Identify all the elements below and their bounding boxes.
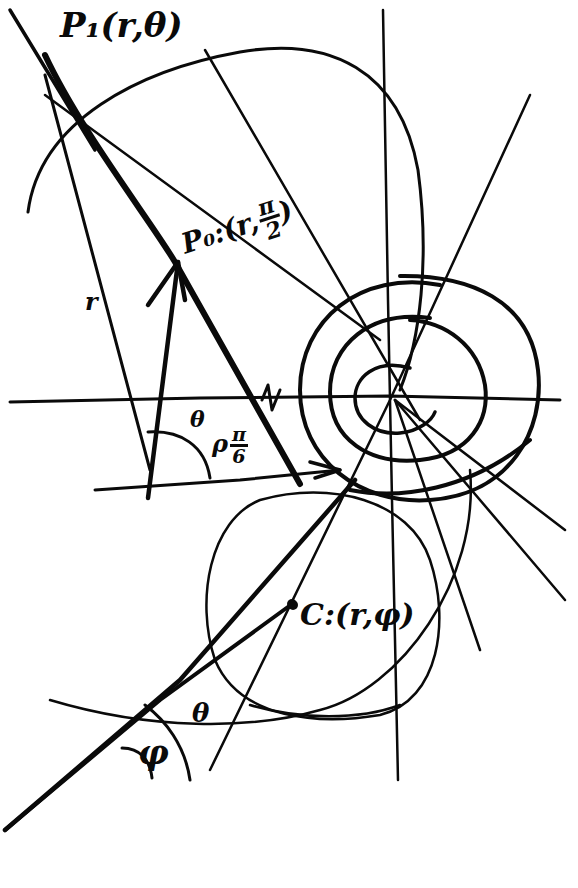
label-angle-fraction: π6 [230,425,248,466]
horizontal-axis [10,396,560,402]
lower-diagonal-1 [5,480,355,830]
spiral-tail [350,440,530,493]
label-angle-den: 6 [230,447,247,466]
label-p1: P₁(r,θ) [60,8,183,42]
p0-vector-arrowhead [148,262,185,305]
label-r: r [85,290,98,314]
label-angle-pi6: ρπ6 [212,425,248,466]
label-theta-lower: θ [192,700,209,726]
label-theta-upper: θ [190,408,205,430]
label-c: C:(r,φ) [300,600,415,630]
lower-diagonal-2 [5,604,292,830]
label-phi: φ [138,735,169,769]
label-angle-prefix: ρ [212,429,228,458]
label-angle-num: π [230,425,248,447]
c-point-dot [292,604,293,605]
baseline [95,470,340,490]
polar-sketch-canvas [0,0,578,888]
